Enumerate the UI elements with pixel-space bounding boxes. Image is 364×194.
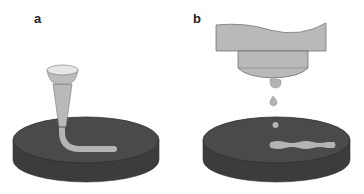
print-head-nozzle-block bbox=[238, 51, 308, 78]
print-head bbox=[216, 23, 326, 51]
diagram-canvas bbox=[0, 0, 364, 194]
droplet-falling bbox=[270, 96, 277, 106]
panel-b bbox=[203, 23, 350, 182]
droplet-forming bbox=[270, 79, 281, 88]
nozzle-cup bbox=[47, 65, 78, 75]
panel-a bbox=[13, 65, 159, 182]
droplet-landing bbox=[273, 122, 279, 128]
